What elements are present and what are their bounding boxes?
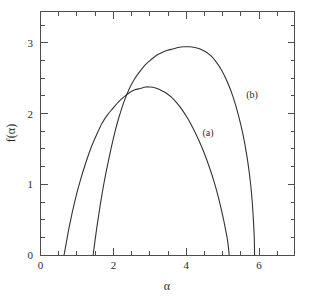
data-curves xyxy=(64,47,255,255)
curve-a-annotation: (a) xyxy=(202,127,213,139)
fractal-spectrum-chart: 0 2 4 6 0 1 2 3 α f(α) (a) (b) xyxy=(0,0,313,298)
y-tick-label-0: 0 xyxy=(28,249,34,261)
curve-a xyxy=(64,87,229,255)
x-tick-labels: 0 2 4 6 xyxy=(38,259,263,271)
chart-figure: 0 2 4 6 0 1 2 3 α f(α) (a) (b) xyxy=(0,0,313,298)
y-axis-title: f(α) xyxy=(4,124,18,142)
y-tick-label-3: 3 xyxy=(28,37,34,49)
x-axis-top-ticks xyxy=(59,12,278,19)
y-tick-label-2: 2 xyxy=(28,108,34,120)
x-axis-title: α xyxy=(164,279,171,293)
x-axis-minor-ticks xyxy=(59,251,278,255)
x-tick-label-0: 0 xyxy=(38,259,44,271)
x-tick-label-2: 2 xyxy=(111,259,117,271)
y-axis-minor-ticks xyxy=(41,25,45,237)
curve-b xyxy=(93,47,254,255)
y-tick-labels: 0 1 2 3 xyxy=(28,37,34,261)
y-tick-label-1: 1 xyxy=(28,178,34,190)
x-tick-label-4: 4 xyxy=(184,259,190,271)
curve-b-annotation: (b) xyxy=(246,89,258,101)
plot-frame xyxy=(41,12,295,256)
frame-rect xyxy=(41,12,295,256)
x-tick-label-6: 6 xyxy=(256,259,262,271)
y-axis-right-ticks xyxy=(288,25,295,237)
